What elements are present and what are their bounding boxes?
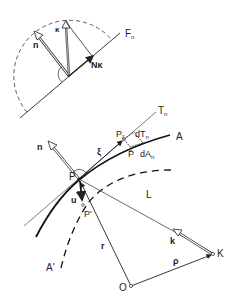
label-n-top: n [33, 40, 39, 50]
label-P-prime: P' [84, 209, 92, 219]
normal-n-arrow [34, 31, 69, 76]
label-u: u [71, 195, 77, 205]
label-Tn: Tn [158, 105, 167, 117]
label-kappa: κ [55, 25, 60, 34]
label-rho: ρ [173, 256, 179, 266]
label-K: K [217, 248, 224, 259]
curve-A-prime [61, 170, 172, 268]
point-P-prime [82, 204, 85, 207]
label-xi: ξ [97, 147, 101, 157]
label-A-prime: A' [46, 262, 55, 273]
label-k: k [170, 236, 176, 246]
point-P [77, 177, 80, 180]
label-Fn: Fn [125, 28, 134, 40]
label-Pbar: P̄ [128, 149, 134, 159]
point-K [211, 252, 214, 255]
label-P: P [69, 171, 76, 182]
projection-line [66, 22, 92, 56]
diagram-canvas: Fn n κ Nκ [0, 0, 239, 301]
normal-curvature-arrow [69, 56, 93, 76]
label-dTn: dTn [135, 129, 149, 140]
main-diagram: Tn A Pξ dTn P̄ dAn ξ n P u P' L k K O r … [24, 105, 224, 293]
label-A: A [176, 131, 183, 142]
label-O: O [119, 282, 127, 293]
k-arrow [173, 229, 212, 254]
top-inset: Fn n κ Nκ [14, 20, 135, 118]
label-n-main: n [37, 142, 43, 152]
point-O [129, 284, 132, 287]
vector-r [81, 183, 131, 286]
right-angle-arc [58, 67, 62, 82]
label-Nkappa: Nκ [91, 60, 103, 70]
label-r: r [101, 241, 105, 251]
vector-rho [131, 255, 211, 286]
label-dAn: dAn [140, 149, 154, 160]
label-L: L [146, 189, 152, 200]
label-P-xi: Pξ [116, 129, 125, 140]
